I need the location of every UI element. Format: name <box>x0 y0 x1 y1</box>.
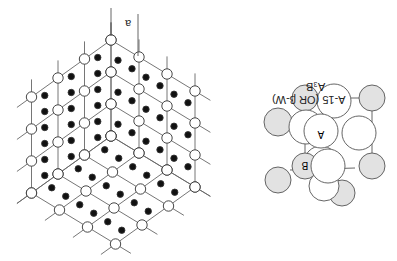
atom-a <box>130 164 136 170</box>
atom-b <box>106 35 116 45</box>
atom-a <box>89 174 95 180</box>
atom-a <box>129 66 135 72</box>
atom-b <box>26 124 36 134</box>
atom-b <box>162 101 172 111</box>
atom-a <box>185 100 191 106</box>
atom-b <box>53 169 63 179</box>
atom-b <box>359 153 385 179</box>
atom-b <box>107 167 117 177</box>
atom-a <box>145 208 151 214</box>
atom-b <box>134 116 144 126</box>
atom-a <box>95 86 101 92</box>
atom-b <box>79 118 89 128</box>
atom-a <box>171 123 177 129</box>
atom-b <box>53 137 63 147</box>
atom-a <box>105 219 111 225</box>
atom-a <box>115 57 121 63</box>
atom-b <box>109 203 119 213</box>
atom-a <box>171 91 177 97</box>
atom-b <box>79 86 89 96</box>
atom-b <box>359 85 385 111</box>
atom-a <box>185 132 191 138</box>
atom-a <box>63 193 69 199</box>
atom-a <box>129 130 135 136</box>
atom-b <box>190 86 200 96</box>
atom-b <box>134 52 144 62</box>
atom-b <box>135 184 145 194</box>
atom-b <box>79 54 89 64</box>
atom-a <box>172 189 178 195</box>
atom-a <box>157 83 163 89</box>
atom-a <box>95 54 101 60</box>
atom-a <box>68 73 74 79</box>
atom-a <box>143 138 149 144</box>
atom-a <box>115 89 121 95</box>
atom-b <box>53 73 63 83</box>
atom-a <box>49 185 55 191</box>
atom-a <box>144 172 150 178</box>
atom-b <box>137 220 147 230</box>
atom-a <box>95 118 101 124</box>
atom-b <box>106 67 116 77</box>
atom-a <box>42 92 48 98</box>
atom-b <box>190 182 200 192</box>
atom-a <box>171 155 177 161</box>
atom-a <box>95 134 101 140</box>
atom-a <box>143 106 149 112</box>
atom-b <box>26 188 36 198</box>
atom-a-label: A <box>317 129 324 140</box>
atom-a <box>157 115 163 121</box>
atom-a <box>116 155 122 161</box>
atom-a <box>143 74 149 80</box>
atom-a <box>68 153 74 159</box>
atom-a <box>42 108 48 114</box>
atom-a <box>75 166 81 172</box>
atom-a <box>42 124 48 130</box>
atom-a <box>157 147 163 153</box>
atom-a <box>42 140 48 146</box>
atom-a <box>95 70 101 76</box>
atom-b <box>106 99 116 109</box>
atom-b <box>134 84 144 94</box>
atom-a <box>102 147 108 153</box>
structure-formula: A₃B <box>306 82 325 92</box>
atom-a <box>68 105 74 111</box>
lattice-projection <box>17 22 210 254</box>
atom-a <box>131 200 137 206</box>
atom-b <box>265 167 291 193</box>
a15-unit-cell: AB <box>111 8 385 206</box>
atom-b <box>162 165 172 175</box>
atom-b <box>54 205 64 215</box>
atom-b <box>26 156 36 166</box>
atom-a <box>91 210 97 216</box>
atom-a <box>115 121 121 127</box>
atom-b <box>53 105 63 115</box>
spacing-label-a: a <box>125 19 131 29</box>
atom-a <box>119 227 125 233</box>
atom-b <box>264 108 292 136</box>
a15-lattice-diagram: AB <box>0 0 397 261</box>
atom-b <box>162 69 172 79</box>
atom-b <box>190 150 200 160</box>
atom-a <box>95 102 101 108</box>
atom-a <box>103 183 109 189</box>
atom-b <box>26 92 36 102</box>
atom-a <box>311 149 345 183</box>
atom-a <box>342 116 376 150</box>
atom-a <box>68 89 74 95</box>
atom-a <box>185 164 191 170</box>
atom-a <box>158 181 164 187</box>
atom-b <box>162 133 172 143</box>
atom-b-label: B <box>301 160 308 171</box>
atom-b <box>134 148 144 158</box>
atom-b <box>106 131 116 141</box>
atom-a <box>68 121 74 127</box>
atom-a <box>117 191 123 197</box>
atom-a <box>77 202 83 208</box>
atom-b <box>163 201 173 211</box>
atom-b <box>81 186 91 196</box>
atom-b <box>110 239 120 249</box>
atom-a <box>42 156 48 162</box>
atom-a <box>68 137 74 143</box>
atom-a <box>129 98 135 104</box>
